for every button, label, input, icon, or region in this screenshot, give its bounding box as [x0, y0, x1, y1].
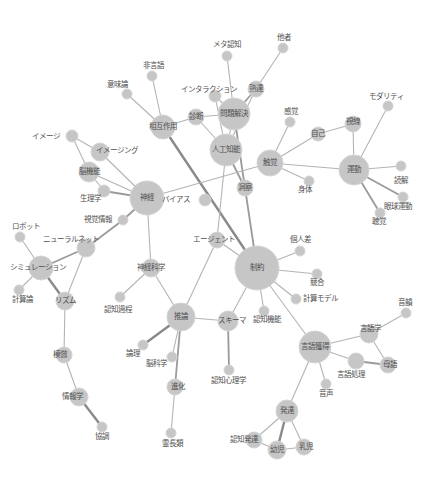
node-label-ai: 人工知能 [212, 144, 241, 154]
node-label-simulation: シミュレーション [10, 263, 66, 272]
node-label-shokkaku: 触覚 [263, 157, 278, 167]
node-bias[interactable] [199, 194, 211, 206]
node-label-metacog: メタ認知 [213, 39, 241, 49]
node-label-shikaku: 視覚情報 [84, 214, 113, 224]
node-label-jukutatsu: 熟達 [249, 83, 264, 93]
node-label-undou: 運動 [347, 165, 362, 174]
node-label-image: イメージ [32, 132, 61, 141]
node-label-tasha: 他者 [277, 32, 292, 42]
node-label-shisen: 視線 [346, 116, 361, 126]
node-label-noukagaku: 脳科学 [146, 358, 168, 368]
node-modality[interactable] [383, 101, 393, 111]
node-label-agent: エージェント [193, 235, 235, 244]
node-label-gengogaku: 言語学 [360, 323, 382, 333]
node-gankyu[interactable] [398, 192, 408, 202]
node-label-gengoshori: 言語処理 [337, 369, 366, 379]
network-graph: メタ認知他者非言語意味論インタラクション熟達問題解決診断相互作用感覚自己視線モダ… [0, 0, 442, 485]
node-label-ninchihattatsu: 認知発達 [230, 434, 259, 444]
node-keisanmodel[interactable] [291, 294, 301, 304]
node-gengoshori[interactable] [348, 353, 364, 369]
node-label-onsei: 音声 [319, 388, 333, 398]
node-noukagaku[interactable] [167, 352, 177, 362]
node-label-ninchikatei: 認知過程 [104, 304, 133, 314]
node-label-kyouchou: 協調 [95, 431, 109, 441]
node-label-dousatsu: 洞察 [238, 182, 253, 192]
node-label-ninchishinri: 認知心理学 [211, 375, 247, 385]
node-label-dokkai: 読解 [394, 175, 409, 185]
node-onsei[interactable] [321, 379, 331, 389]
node-label-kyougou: 競合 [310, 277, 325, 287]
node-label-neural: ニューラルネット [43, 235, 99, 244]
node-keisanron[interactable] [14, 285, 24, 295]
node-label-sougo: 相互作用 [149, 121, 177, 131]
node-label-gengokakutoku: 言語獲得 [301, 341, 330, 351]
node-label-imaging: イメージング [96, 145, 139, 155]
node-label-shintai: 身体 [298, 184, 313, 194]
node-label-seiyaku: 制約 [250, 262, 264, 272]
node-label-keisanmodel: 計算モデル [303, 293, 339, 303]
node-label-nokino: 脳機能 [79, 166, 101, 176]
node-label-jouhougaku: 情報学 [62, 391, 84, 401]
node-image[interactable] [66, 130, 78, 142]
node-label-ninchikino: 認知機能 [253, 314, 282, 324]
node-label-schema: スキーマ [218, 316, 246, 325]
node-label-hattatsu: 発達 [280, 405, 295, 415]
node-label-ronri: 論理 [126, 348, 141, 358]
node-label-jiko: 自己 [311, 128, 326, 138]
node-shikaku[interactable] [118, 215, 128, 225]
node-kyouchou[interactable] [97, 422, 107, 432]
node-label-mondai: 問題解決 [220, 108, 249, 118]
node-label-imiron: 意味論 [107, 79, 129, 89]
node-label-kankaku: 感覚 [284, 106, 299, 116]
node-label-onin: 音韻 [398, 297, 413, 307]
node-kojinsa[interactable] [295, 246, 305, 256]
node-kankaku[interactable] [285, 117, 295, 127]
node-higengo[interactable] [147, 71, 157, 81]
node-onin[interactable] [401, 308, 411, 318]
node-ninchishinri[interactable] [224, 365, 234, 375]
node-label-bias: バイアス [162, 195, 190, 204]
node-label-rhythm: リズム [55, 295, 76, 305]
node-label-kojinsa: 個人差 [290, 234, 312, 244]
node-label-shindan: 診断 [189, 111, 204, 121]
node-label-shinkeikagaku: 神経科学 [137, 262, 166, 272]
node-ninchikatei[interactable] [115, 292, 125, 302]
node-label-seirigaku: 生理学 [80, 193, 102, 203]
node-label-bogo: 母語 [383, 359, 398, 369]
node-metacog[interactable] [222, 51, 232, 61]
node-label-modality: モダリティ [369, 91, 404, 101]
node-label-shinka: 進化 [171, 381, 186, 391]
node-label-keisanron: 計算論 [12, 294, 34, 304]
node-label-reichourui: 霊長類 [162, 438, 184, 448]
node-label-gankyu: 眼球運動 [384, 201, 413, 211]
node-label-higengo: 非言語 [143, 60, 165, 70]
node-label-robot: ロボット [12, 222, 40, 231]
node-label-youji: 幼児 [270, 444, 285, 454]
node-imiron[interactable] [122, 89, 132, 99]
node-reichourui[interactable] [166, 428, 176, 438]
node-label-interaction: インタラクション [181, 85, 237, 94]
node-label-nyuuji: 乳児 [299, 441, 314, 451]
node-dokkai[interactable] [396, 161, 406, 171]
node-label-mohou: 模倣 [53, 349, 68, 359]
node-label-shinkei: 神経 [140, 192, 155, 202]
node-label-suiron: 推論 [174, 311, 189, 321]
node-tasha[interactable] [278, 43, 288, 53]
node-robot[interactable] [15, 232, 25, 242]
node-label-choukaku: 聴覚 [372, 216, 387, 226]
